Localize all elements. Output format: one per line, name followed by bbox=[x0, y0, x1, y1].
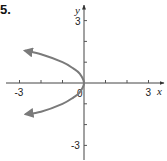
x-tick-label: 3 bbox=[146, 87, 152, 98]
x-axis-label: x bbox=[156, 85, 162, 97]
parabola-curve bbox=[25, 51, 84, 114]
graph: -33 3-3 0 x y bbox=[0, 0, 167, 161]
y-axis-label: y bbox=[74, 4, 80, 16]
y-tick-label: -3 bbox=[71, 140, 80, 151]
x-tick-label: -3 bbox=[15, 87, 24, 98]
y-tick-label: 3 bbox=[75, 16, 81, 27]
